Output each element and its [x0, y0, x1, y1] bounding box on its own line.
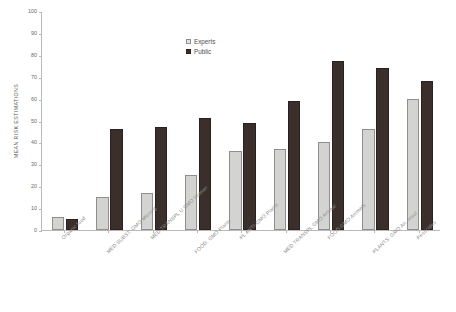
bar-group	[264, 12, 308, 230]
y-tick-label: 50	[31, 118, 37, 124]
y-tick-label: 90	[31, 30, 37, 36]
bar-group	[352, 12, 396, 230]
y-tick-label: 20	[31, 183, 37, 189]
legend-item-public: Public	[186, 47, 215, 57]
bar-public	[155, 127, 168, 230]
bar-group	[86, 12, 130, 230]
x-tick-mark	[108, 230, 109, 233]
x-tick-mark	[197, 230, 198, 233]
bar-experts	[229, 151, 242, 230]
legend-swatch-public-icon	[186, 49, 191, 54]
bar-chart: MEAN RISK ESTIMATIONS 100908070605040302…	[0, 0, 456, 312]
bar-experts	[52, 217, 65, 230]
y-tick-mark	[39, 231, 42, 232]
x-tick-mark	[374, 230, 375, 233]
y-tick-label: 60	[31, 96, 37, 102]
bar-group	[397, 12, 441, 230]
bar-public	[199, 118, 212, 230]
legend-swatch-experts-icon	[186, 39, 191, 44]
bar-group	[219, 12, 263, 230]
legend-label-public: Public	[194, 47, 211, 57]
legend-item-experts: Experts	[186, 37, 215, 47]
bar-group	[42, 12, 86, 230]
y-axis-title: MEAN RISK ESTIMATIONS	[13, 61, 19, 181]
y-tick-label: 100	[28, 8, 37, 14]
legend: Experts Public	[186, 37, 215, 56]
bar-public	[243, 123, 256, 230]
bar-public	[376, 68, 389, 230]
y-tick-label: 0	[34, 227, 37, 233]
plot-area: 1009080706050403020100	[41, 12, 440, 231]
bar-public	[110, 129, 123, 230]
bar-group	[308, 12, 352, 230]
y-tick-label: 80	[31, 52, 37, 58]
bar-experts	[274, 149, 287, 230]
bar-experts	[96, 197, 109, 230]
legend-label-experts: Experts	[194, 37, 215, 47]
y-tick-label: 10	[31, 205, 37, 211]
x-tick-mark	[286, 230, 287, 233]
bar-public	[421, 81, 434, 230]
bar-public	[288, 101, 301, 230]
bar-experts	[362, 129, 375, 230]
bar-group	[131, 12, 175, 230]
y-tick-label: 70	[31, 74, 37, 80]
y-tick-label: 30	[31, 161, 37, 167]
y-tick-label: 40	[31, 139, 37, 145]
bar-groups	[42, 12, 440, 230]
